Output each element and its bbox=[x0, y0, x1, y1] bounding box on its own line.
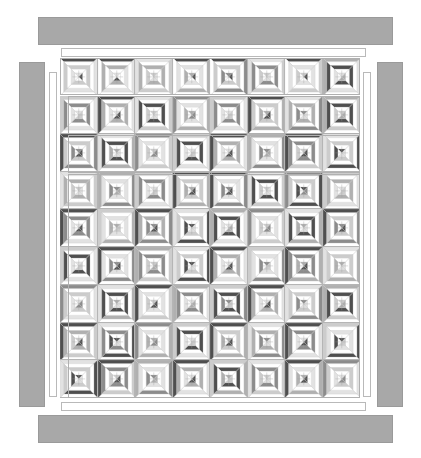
right-binding-strip bbox=[363, 72, 371, 397]
left-binding-strip bbox=[49, 72, 57, 397]
row-band-3 bbox=[68, 135, 360, 173]
row-band-1 bbox=[60, 58, 360, 95]
quilt-diagram-canvas bbox=[0, 0, 421, 458]
top-border-bar bbox=[38, 17, 393, 45]
top-binding-strip bbox=[61, 48, 366, 57]
right-border-bar bbox=[377, 62, 403, 407]
left-border-bar bbox=[19, 62, 45, 407]
bottom-binding-strip bbox=[61, 402, 366, 411]
row-band-2 bbox=[68, 96, 360, 134]
bottom-border-bar bbox=[38, 415, 393, 443]
row-band-4 bbox=[68, 174, 360, 398]
